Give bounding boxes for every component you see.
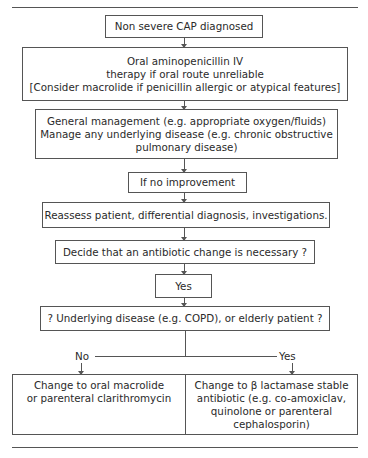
outcome-no-line: Change to oral macrolide (34, 379, 164, 392)
general-management-line: pulmonary disease) (136, 141, 238, 154)
arrow-down-icon (292, 363, 293, 374)
decide-change-text: Decide that an antibiotic change is nece… (63, 246, 307, 259)
no-improvement-box: If no improvement (128, 172, 247, 193)
arrow-down-icon (184, 193, 185, 202)
outcome-yes-line: Change to β lactamase stable (194, 379, 348, 392)
initial-therapy-line: [Consider macrolide if penicillin allerg… (30, 81, 341, 94)
start-text: Non severe CAP diagnosed (115, 20, 254, 33)
no-improvement-text: If no improvement (140, 176, 235, 189)
branch-stem-line (185, 331, 186, 356)
general-management-line: General management (e.g. appropriate oxy… (47, 115, 326, 128)
top-rule (12, 7, 358, 8)
arrow-down-icon (184, 264, 185, 274)
outcome-yes-cell: Change to β lactamase stable antibiotic … (186, 375, 357, 434)
arrow-down-icon (184, 228, 185, 240)
outcome-no-cell: Change to oral macrolide or parenteral c… (13, 375, 185, 434)
arrow-down-icon (184, 298, 185, 306)
outcome-yes-line: antibiotic (e.g. co-amoxiclav, (197, 392, 346, 405)
general-management-line: Manage any underlying disease (e.g. chro… (40, 128, 333, 141)
yes-box: Yes (155, 274, 212, 298)
arrow-down-icon (184, 38, 185, 47)
branch-yes-label: Yes (277, 350, 298, 362)
reassess-text: Reassess patient, differential diagnosis… (44, 209, 327, 222)
bottom-rule (12, 447, 358, 448)
branch-horizontal-line (95, 356, 277, 357)
arrow-down-icon (184, 159, 185, 172)
start-box: Non severe CAP diagnosed (105, 15, 263, 38)
underlying-question-text: ? Underlying disease (e.g. COPD), or eld… (48, 312, 323, 325)
general-management-box: General management (e.g. appropriate oxy… (35, 109, 338, 159)
outcome-no-line: or parenteral clarithromycin (27, 392, 172, 405)
outcome-yes-line: quinolone or parenteral (211, 405, 332, 418)
initial-therapy-line: therapy if oral route unreliable (106, 68, 264, 81)
branch-no-label: No (73, 350, 91, 362)
arrow-down-icon (81, 363, 82, 374)
initial-therapy-line: Oral aminopenicillin IV (127, 55, 243, 68)
arrow-down-icon (184, 101, 185, 109)
decide-change-box: Decide that an antibiotic change is nece… (55, 240, 315, 264)
initial-therapy-box: Oral aminopenicillin IV therapy if oral … (22, 47, 348, 101)
underlying-question-box: ? Underlying disease (e.g. COPD), or eld… (40, 306, 330, 331)
yes-text: Yes (175, 280, 192, 293)
reassess-box: Reassess patient, differential diagnosis… (42, 202, 330, 228)
outcome-yes-line: cephalosporin) (233, 418, 309, 431)
